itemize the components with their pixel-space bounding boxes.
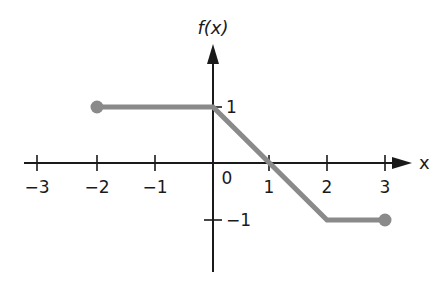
y-tick-label: −1: [226, 210, 251, 230]
x-tick-label: −2: [84, 177, 109, 197]
x-tick-label: −3: [24, 177, 49, 197]
right-endpoint-dot: [379, 214, 392, 227]
function-plot: −3 −2 −1 0 1 2 3 1 −1 x f(x): [0, 0, 442, 289]
y-axis-label: f(x): [197, 17, 228, 38]
x-axis-arrow-icon: [392, 157, 412, 169]
x-tick-label: −1: [142, 177, 167, 197]
x-tick-label: 2: [322, 177, 333, 197]
origin-label: 0: [222, 168, 233, 188]
x-tick-label: 3: [380, 177, 391, 197]
left-endpoint-dot: [91, 101, 104, 114]
x-axis-label: x: [419, 152, 430, 173]
y-tick-label: 1: [226, 97, 237, 117]
y-axis-arrow-icon: [207, 44, 219, 64]
x-tick-label: 1: [264, 177, 275, 197]
